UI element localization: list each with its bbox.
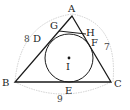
geometry-diagram: A B C D E F G H I 8 7 9 bbox=[0, 0, 130, 110]
triangle-abc bbox=[15, 16, 111, 82]
length-bc: 9 bbox=[57, 94, 63, 104]
label-g: G bbox=[50, 20, 58, 31]
label-c: C bbox=[114, 78, 122, 89]
length-ab: 8 bbox=[24, 34, 30, 44]
label-f: F bbox=[91, 37, 98, 48]
label-d: D bbox=[33, 33, 41, 44]
length-ac: 7 bbox=[104, 42, 110, 52]
label-b: B bbox=[2, 77, 9, 88]
incenter-dot bbox=[68, 57, 71, 60]
label-h: H bbox=[86, 27, 95, 38]
label-a: A bbox=[67, 3, 76, 14]
dimension-arc-bc bbox=[15, 82, 111, 94]
label-e: E bbox=[65, 85, 72, 96]
label-i: I bbox=[66, 61, 70, 72]
